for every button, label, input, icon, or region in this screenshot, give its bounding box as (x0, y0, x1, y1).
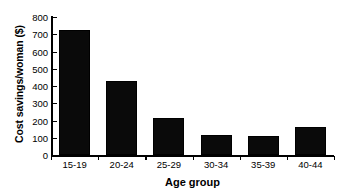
bar (59, 30, 90, 155)
x-tick-mark (334, 156, 335, 160)
bar (201, 135, 232, 155)
y-tick-label: 400 (8, 81, 48, 92)
x-axis-title: Age group (51, 176, 334, 188)
x-tick-mark (193, 156, 194, 160)
x-tick-label: 20-24 (110, 159, 134, 170)
x-tick-label: 35-39 (251, 159, 275, 170)
y-tick-label: 700 (8, 29, 48, 40)
x-tick-mark (287, 156, 288, 160)
bar (295, 127, 326, 155)
bar (248, 136, 279, 155)
x-tick-mark (51, 156, 52, 160)
x-tick-mark (240, 156, 241, 160)
y-tick-label: 200 (8, 115, 48, 126)
y-tick-label: 600 (8, 46, 48, 57)
x-tick-label: 40-44 (298, 159, 322, 170)
bar (106, 81, 137, 155)
bar-chart-figure: Cost savings/woman ($) 01002003004005006… (0, 0, 346, 196)
x-tick-label: 25-29 (157, 159, 181, 170)
x-tick-mark (98, 156, 99, 160)
bar (153, 118, 184, 155)
y-tick-label: 500 (8, 63, 48, 74)
x-tick-label: 15-19 (62, 159, 86, 170)
bar-series (51, 17, 334, 155)
plot-area (51, 17, 334, 155)
y-tick-label: 100 (8, 132, 48, 143)
y-tick-label: 0 (8, 150, 48, 161)
y-tick-label: 800 (8, 12, 48, 23)
x-tick-label: 30-34 (204, 159, 228, 170)
y-tick-label: 300 (8, 98, 48, 109)
x-tick-mark (145, 156, 146, 160)
y-tick-mark (53, 155, 57, 156)
